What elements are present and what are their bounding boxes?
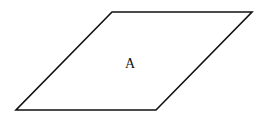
shape-label: A xyxy=(125,56,136,71)
parallelogram-diagram: A xyxy=(0,0,264,123)
